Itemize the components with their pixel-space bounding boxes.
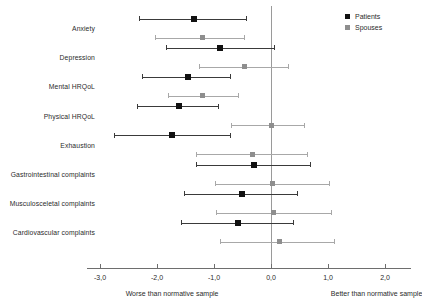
x-axis-tick bbox=[271, 264, 272, 268]
x-axis-tick-label: -2,0 bbox=[151, 274, 163, 281]
confidence-interval-cap bbox=[334, 239, 335, 244]
confidence-interval-cap bbox=[230, 133, 231, 138]
x-axis-tick-label: 0,0 bbox=[266, 274, 276, 281]
confidence-interval-cap bbox=[246, 16, 247, 21]
data-point-marker bbox=[191, 16, 197, 22]
data-point-marker bbox=[277, 239, 282, 244]
confidence-interval-cap bbox=[139, 16, 140, 21]
confidence-interval-cap bbox=[114, 133, 115, 138]
category-label: Gastrointestinal complaints bbox=[11, 171, 95, 178]
confidence-interval-cap bbox=[220, 239, 221, 244]
data-point-marker bbox=[200, 35, 205, 40]
category-label: Physical HRQoL bbox=[44, 112, 95, 119]
category-label: Mental HRQoL bbox=[49, 83, 95, 90]
data-point-marker bbox=[176, 103, 182, 109]
axis-direction-annotation: Worse than normative sample bbox=[126, 290, 219, 297]
axis-direction-annotation: Better than normative sample bbox=[331, 290, 422, 297]
confidence-interval-cap bbox=[331, 210, 332, 215]
category-label: Anxiety bbox=[72, 25, 95, 32]
x-axis-line bbox=[87, 268, 411, 269]
confidence-interval-cap bbox=[155, 35, 156, 40]
category-label: Exhaustion bbox=[60, 141, 95, 148]
x-axis-tick-label: -3,0 bbox=[94, 274, 106, 281]
confidence-interval-cap bbox=[196, 152, 197, 157]
chart-legend: Patients Spouses bbox=[345, 11, 382, 33]
data-point-marker bbox=[271, 210, 276, 215]
zero-reference-line bbox=[271, 6, 272, 268]
confidence-interval-cap bbox=[297, 191, 298, 196]
data-point-marker bbox=[251, 162, 257, 168]
confidence-interval-cap bbox=[218, 104, 219, 109]
confidence-interval-cap bbox=[304, 123, 305, 128]
x-axis-tick-label: 1,0 bbox=[323, 274, 333, 281]
confidence-interval-cap bbox=[329, 181, 330, 186]
confidence-interval-cap bbox=[166, 45, 167, 50]
confidence-interval-cap bbox=[274, 45, 275, 50]
data-point-marker bbox=[269, 123, 274, 128]
confidence-interval-cap bbox=[307, 152, 308, 157]
data-point-marker bbox=[242, 64, 247, 69]
confidence-interval-cap bbox=[238, 93, 239, 98]
data-point-marker bbox=[250, 152, 255, 157]
category-label: Musculosceletal complaints bbox=[10, 200, 95, 207]
x-axis-tick-label: 2,0 bbox=[380, 274, 390, 281]
confidence-interval-cap bbox=[196, 162, 197, 167]
confidence-interval-cap bbox=[288, 64, 289, 69]
confidence-interval-cap bbox=[216, 210, 217, 215]
confidence-interval-cap bbox=[293, 220, 294, 225]
legend-item-patients: Patients bbox=[345, 11, 382, 22]
x-axis-tick bbox=[214, 264, 215, 268]
x-axis-tick-label: -1,0 bbox=[208, 274, 220, 281]
data-point-marker bbox=[235, 220, 241, 226]
x-axis-tick bbox=[100, 264, 101, 268]
x-axis-tick bbox=[328, 264, 329, 268]
legend-item-spouses: Spouses bbox=[345, 22, 382, 33]
legend-swatch-square-dark-icon bbox=[345, 14, 350, 19]
data-point-marker bbox=[217, 45, 223, 51]
confidence-interval-cap bbox=[244, 35, 245, 40]
data-point-marker bbox=[239, 191, 245, 197]
data-point-marker bbox=[185, 74, 191, 80]
x-axis-tick bbox=[157, 264, 158, 268]
confidence-interval-cap bbox=[184, 191, 185, 196]
confidence-interval-cap bbox=[137, 104, 138, 109]
confidence-interval-cap bbox=[199, 64, 200, 69]
confidence-interval-cap bbox=[230, 74, 231, 79]
data-point-marker bbox=[200, 93, 205, 98]
legend-label-spouses: Spouses bbox=[355, 24, 382, 31]
data-point-marker bbox=[270, 181, 275, 186]
confidence-interval-cap bbox=[181, 220, 182, 225]
category-label: Cardiovascular complaints bbox=[13, 229, 95, 236]
confidence-interval-cap bbox=[231, 123, 232, 128]
confidence-interval-cap bbox=[310, 162, 311, 167]
data-point-marker bbox=[169, 132, 175, 138]
confidence-interval-cap bbox=[168, 93, 169, 98]
legend-swatch-square-gray-icon bbox=[345, 25, 350, 30]
category-label: Depression bbox=[60, 54, 95, 61]
confidence-interval-cap bbox=[215, 181, 216, 186]
confidence-interval-cap bbox=[142, 74, 143, 79]
legend-label-patients: Patients bbox=[355, 13, 380, 20]
x-axis-tick bbox=[385, 264, 386, 268]
